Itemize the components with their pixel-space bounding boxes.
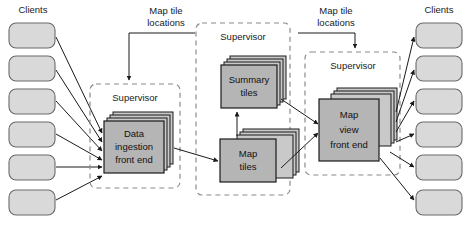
map-view-front-end-label-line-1: Map [340, 109, 358, 120]
list-item[interactable] [416, 155, 462, 180]
arrow-line [396, 101, 414, 132]
summary-tiles-label-line-2: tiles [241, 87, 258, 98]
arrow-line [56, 101, 102, 151]
list-item[interactable] [9, 23, 55, 48]
arrow-line [396, 70, 414, 122]
clients-right-group: Clients [416, 4, 462, 215]
clients-left-title: Clients [18, 4, 47, 15]
annotation-label-line-1: Map tile [149, 5, 182, 16]
flow-clients-to-ingestion [56, 37, 102, 200]
supervisor-left-title: Supervisor [112, 92, 157, 103]
annotation-label-line-1: Map tile [319, 5, 352, 16]
annotation-label-line-2: locations [147, 17, 185, 28]
annotation-label-line-2: locations [317, 17, 355, 28]
annotation-map-tile-locations-left: Map tile locations [129, 5, 195, 80]
arrow-line [56, 134, 102, 160]
map-tiles-label-line-1: Map [239, 148, 257, 159]
supervisor-right-title: Supervisor [330, 60, 375, 71]
supervisor-right-group: Supervisor Map view front end [305, 52, 400, 175]
summary-tiles-label-line-1: Summary [229, 74, 270, 85]
map-view-front-end-label-line-3: front end [330, 139, 368, 150]
supervisor-left-group: Supervisor Data ingestion front end [90, 84, 180, 188]
supervisor-middle-group: Supervisor Summary tiles Map tiles [196, 23, 299, 195]
list-item[interactable] [9, 190, 55, 215]
list-item[interactable] [416, 122, 462, 147]
clients-right-title: Clients [424, 4, 453, 15]
list-item[interactable] [9, 56, 55, 81]
list-item[interactable] [9, 89, 55, 114]
arrow-line [56, 70, 102, 142]
supervisor-middle-title: Supervisor [220, 31, 265, 42]
list-item[interactable] [9, 155, 55, 180]
arrow-line [396, 37, 414, 112]
diagram-canvas: Clients Map tile locations Supervis [0, 0, 471, 229]
map-view-front-end-label-line-2: view [339, 124, 358, 135]
annotation-leader-line [298, 33, 355, 48]
arrow-line [390, 152, 414, 167]
list-item[interactable] [416, 190, 462, 215]
arrow-line [56, 176, 102, 200]
data-ingestion-front-end-label-line-2: ingestion [115, 141, 153, 152]
architecture-diagram: Clients Map tile locations Supervis [0, 0, 471, 229]
list-item[interactable] [416, 23, 462, 48]
arrow-line [56, 37, 102, 133]
arrow-line [396, 134, 414, 142]
annotation-map-tile-locations-right: Map tile locations [298, 5, 355, 48]
data-ingestion-front-end-label-line-1: Data [124, 128, 145, 139]
list-item[interactable] [9, 122, 55, 147]
list-item[interactable] [416, 89, 462, 114]
list-item[interactable] [416, 56, 462, 81]
data-ingestion-front-end-label-line-3: front end [115, 154, 153, 165]
clients-left-group: Clients [9, 4, 55, 215]
annotation-leader-line [129, 33, 195, 80]
arrow-line [281, 99, 318, 124]
map-tiles-label-line-2: tiles [240, 161, 257, 172]
